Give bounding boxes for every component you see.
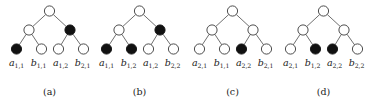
tree-edge bbox=[347, 34, 355, 45]
leaf-label-row: a1,1b1,2a1,2b2,2 bbox=[93, 57, 186, 75]
tree-edge bbox=[123, 14, 136, 26]
tree-panel-d: a2,1b1,2a2,2b2,2(d) bbox=[277, 0, 370, 108]
tree-node-leaf-4 bbox=[352, 44, 362, 54]
binary-tree-diagram bbox=[3, 0, 96, 60]
tree-edge bbox=[33, 14, 46, 26]
tree-edge bbox=[19, 34, 26, 44]
tree-edge bbox=[327, 14, 340, 26]
tree-panel-a: a1,1b1,1a1,2b2,1(a) bbox=[3, 0, 96, 108]
panel-caption: (d) bbox=[277, 86, 370, 97]
leaf-label-2: b1,1 bbox=[211, 57, 232, 69]
leaf-label-1: a1,1 bbox=[96, 57, 117, 69]
tree-node-internal-left bbox=[24, 25, 34, 35]
binary-tree-diagram bbox=[93, 0, 186, 60]
tree-node-leaf-3 bbox=[143, 44, 153, 54]
tree-node-root bbox=[227, 6, 237, 16]
leaf-label-subscript: 2,2 bbox=[355, 62, 365, 69]
leaf-label-subscript: 1,1 bbox=[105, 62, 115, 69]
tree-node-leaf-1 bbox=[194, 44, 204, 54]
tree-node-internal-left bbox=[114, 25, 124, 35]
leaf-label-subscript: 2,1 bbox=[81, 62, 91, 69]
tree-edge bbox=[307, 14, 320, 26]
leaf-label-base: b bbox=[305, 57, 311, 68]
leaf-label-base: b bbox=[258, 57, 264, 68]
binary-tree-diagram bbox=[186, 0, 279, 60]
leaf-label-base: a bbox=[236, 57, 242, 68]
leaf-label-base: b bbox=[31, 57, 37, 68]
leaf-label-subscript: 2,2 bbox=[333, 62, 343, 69]
tree-edge bbox=[61, 34, 67, 44]
leaf-label-2: b1,2 bbox=[118, 57, 139, 69]
tree-edge bbox=[53, 14, 66, 26]
tree-edge bbox=[202, 34, 209, 44]
leaf-label-2: b1,1 bbox=[28, 57, 49, 69]
tree-node-leaf-2 bbox=[219, 44, 229, 54]
tree-node-leaf-4 bbox=[168, 44, 178, 54]
leaf-label-subscript: 1,1 bbox=[37, 62, 47, 69]
tree-panel-b: a1,1b1,2a1,2b2,2(b) bbox=[93, 0, 186, 108]
tree-edge bbox=[122, 34, 129, 44]
leaf-label-2: b1,2 bbox=[302, 57, 323, 69]
tree-edge bbox=[73, 34, 81, 45]
leaf-label-1: a1,1 bbox=[6, 57, 27, 69]
leaf-label-subscript: 2,2 bbox=[171, 62, 181, 69]
tree-edge bbox=[151, 34, 157, 44]
leaf-label-base: b bbox=[349, 57, 355, 68]
tree-node-leaf-4 bbox=[78, 44, 88, 54]
leaf-label-subscript: 1,2 bbox=[149, 62, 159, 69]
leaf-label-subscript: 2,1 bbox=[198, 62, 208, 69]
leaf-label-subscript: 2,1 bbox=[289, 62, 299, 69]
leaf-label-row: a2,1b1,2a2,2b2,2 bbox=[277, 57, 370, 75]
panel-caption: (b) bbox=[93, 86, 186, 97]
tree-node-leaf-2 bbox=[36, 44, 46, 54]
tree-node-root bbox=[134, 6, 144, 16]
leaf-label-subscript: 1,1 bbox=[15, 62, 25, 69]
leaf-label-3: a1,2 bbox=[140, 57, 161, 69]
tree-edge bbox=[306, 34, 313, 44]
four-binary-trees-figure: a1,1b1,1a1,2b2,1(a)a1,1b1,2a1,2b2,2(b)a2… bbox=[0, 0, 373, 108]
tree-edge bbox=[335, 34, 341, 44]
tree-edge bbox=[32, 34, 39, 44]
leaf-label-subscript: 1,2 bbox=[311, 62, 321, 69]
tree-edge bbox=[216, 14, 229, 26]
tree-edge bbox=[143, 14, 156, 26]
tree-node-leaf-2 bbox=[310, 44, 320, 54]
tree-node-internal-right bbox=[155, 25, 165, 35]
leaf-label-base: a bbox=[53, 57, 59, 68]
tree-panel-c: a2,1b1,1a2,2b2,1(c) bbox=[186, 0, 279, 108]
leaf-label-base: a bbox=[283, 57, 289, 68]
tree-node-internal-left bbox=[207, 25, 217, 35]
tree-node-internal-right bbox=[339, 25, 349, 35]
tree-node-leaf-3 bbox=[236, 44, 246, 54]
tree-edge bbox=[215, 34, 222, 44]
leaf-label-base: b bbox=[165, 57, 171, 68]
leaf-label-subscript: 2,1 bbox=[264, 62, 274, 69]
leaf-label-3: a2,2 bbox=[233, 57, 254, 69]
panel-caption: (a) bbox=[3, 86, 96, 97]
leaf-label-base: a bbox=[192, 57, 198, 68]
leaf-label-row: a2,1b1,1a2,2b2,1 bbox=[186, 57, 279, 75]
tree-node-leaf-1 bbox=[285, 44, 295, 54]
leaf-label-1: a2,1 bbox=[280, 57, 301, 69]
tree-edge bbox=[236, 14, 249, 26]
leaf-label-base: b bbox=[75, 57, 81, 68]
leaf-label-4: b2,1 bbox=[255, 57, 276, 69]
leaf-label-subscript: 1,2 bbox=[127, 62, 137, 69]
leaf-label-row: a1,1b1,1a1,2b2,1 bbox=[3, 57, 96, 75]
panel-caption: (c) bbox=[186, 86, 279, 97]
tree-node-internal-left bbox=[298, 25, 308, 35]
tree-node-leaf-1 bbox=[11, 44, 21, 54]
leaf-label-base: b bbox=[121, 57, 127, 68]
leaf-label-base: a bbox=[99, 57, 105, 68]
tree-node-root bbox=[44, 6, 54, 16]
tree-edge bbox=[244, 34, 250, 44]
leaf-label-base: b bbox=[214, 57, 220, 68]
leaf-label-1: a2,1 bbox=[189, 57, 210, 69]
leaf-label-4: b2,1 bbox=[72, 57, 93, 69]
tree-node-internal-right bbox=[65, 25, 75, 35]
leaf-label-subscript: 1,1 bbox=[220, 62, 230, 69]
leaf-label-4: b2,2 bbox=[346, 57, 367, 69]
tree-edge bbox=[163, 34, 171, 45]
tree-edge bbox=[293, 34, 300, 44]
tree-node-leaf-3 bbox=[53, 44, 63, 54]
